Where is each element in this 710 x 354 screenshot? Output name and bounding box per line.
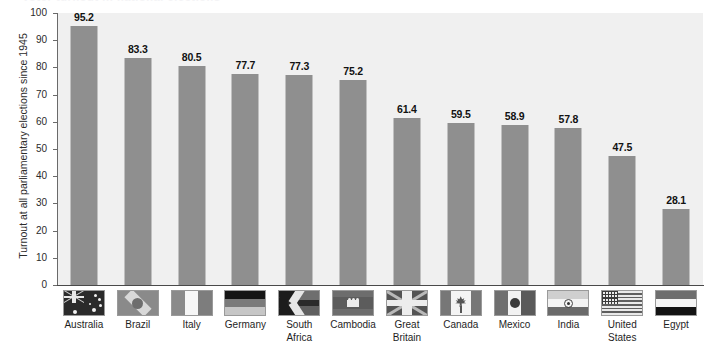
bar-value-label: 61.4 xyxy=(397,103,417,115)
category-label: India xyxy=(542,319,596,332)
flag-temple-tower xyxy=(348,298,351,305)
category-slot[interactable]: Italy xyxy=(165,286,219,332)
flag-cross-v xyxy=(72,291,77,303)
y-axis-tick-label: 90 xyxy=(36,33,47,46)
flag-india-icon xyxy=(547,290,589,316)
flag-star xyxy=(606,292,608,294)
flag-star xyxy=(609,299,611,301)
category-slot[interactable]: GreatBritain xyxy=(380,286,434,344)
flag-stripe xyxy=(198,291,211,315)
y-axis-tick-label: 30 xyxy=(36,196,47,209)
category-slot[interactable]: India xyxy=(542,286,596,332)
bar-value-label: 75.2 xyxy=(343,65,363,77)
category-slot[interactable]: Brazil xyxy=(111,286,165,332)
y-axis-tick-label: 10 xyxy=(36,251,47,264)
flag-star xyxy=(609,295,611,297)
y-axis-tick: 60 xyxy=(0,122,57,123)
y-axis-tick: 90 xyxy=(0,40,57,41)
flag-band-right xyxy=(471,291,481,315)
category-slot[interactable]: Canada xyxy=(434,286,488,332)
bar[interactable] xyxy=(70,26,97,285)
y-axis-tick: 20 xyxy=(0,231,57,232)
category-label: Great xyxy=(380,319,434,332)
category-slot[interactable]: Cambodia xyxy=(326,286,380,332)
y-axis-tick: 10 xyxy=(0,258,57,259)
flag-stripe xyxy=(656,299,696,307)
flag-star xyxy=(606,299,608,301)
flag-cambodia-icon xyxy=(332,290,374,316)
category-label: United xyxy=(595,319,649,332)
y-axis-tick-label: 0 xyxy=(41,278,47,291)
category-label: Australia xyxy=(57,319,111,332)
category-slot[interactable]: Australia xyxy=(57,286,111,332)
bar-value-label: 77.7 xyxy=(236,59,256,71)
bar-value-label: 83.3 xyxy=(128,43,148,55)
bar-slot: 58.9 xyxy=(488,13,542,285)
category-slot[interactable]: UnitedStates xyxy=(595,286,649,344)
y-axis-title: Turnout at all parliamentary elections s… xyxy=(17,1,29,291)
y-axis-tick: 80 xyxy=(0,67,57,68)
bar[interactable] xyxy=(663,209,690,285)
y-axis-tick: 40 xyxy=(0,176,57,177)
bar[interactable] xyxy=(178,66,205,285)
bar[interactable] xyxy=(286,75,313,285)
bar-slot: 83.3 xyxy=(111,13,165,285)
flag-south-africa-icon xyxy=(278,290,320,316)
bar-value-label: 59.5 xyxy=(451,108,471,120)
bar[interactable] xyxy=(340,80,367,285)
category-label: Germany xyxy=(219,319,273,332)
flag-stripe xyxy=(548,291,588,299)
bar[interactable] xyxy=(501,125,528,285)
bar[interactable] xyxy=(124,58,151,285)
category-label: South xyxy=(272,319,326,332)
bar-series: 95.283.380.577.777.375.261.459.558.957.8… xyxy=(57,13,703,285)
bar[interactable] xyxy=(393,118,420,285)
clipped-header-strip: Voter turnout in national elections xyxy=(0,0,710,7)
category-slot[interactable]: Mexico xyxy=(488,286,542,332)
y-axis-tick: 0 xyxy=(0,285,57,286)
category-label: Britain xyxy=(380,332,434,345)
bar-slot: 77.3 xyxy=(272,13,326,285)
flag-star xyxy=(615,299,617,301)
category-slot[interactable]: SouthAfrica xyxy=(272,286,326,344)
y-axis-tick-label: 40 xyxy=(36,169,47,182)
flag-canada-icon xyxy=(440,290,482,316)
flag-stripe xyxy=(225,291,265,299)
flag-united-states-icon xyxy=(601,290,643,316)
category-label: Egypt xyxy=(649,319,703,332)
category-slot[interactable]: Egypt xyxy=(649,286,703,332)
bar-value-label: 77.3 xyxy=(289,60,309,72)
bar[interactable] xyxy=(447,123,474,285)
flag-band-left xyxy=(441,291,451,315)
flag-star xyxy=(98,298,101,301)
bar-slot: 28.1 xyxy=(649,13,703,285)
bar-slot: 59.5 xyxy=(434,13,488,285)
flag-hoist-triangle xyxy=(279,298,287,308)
flag-star xyxy=(89,303,91,305)
flag-stripe xyxy=(185,291,198,315)
flag-star xyxy=(612,295,614,297)
flag-stripe xyxy=(548,307,588,315)
category-label: States xyxy=(595,332,649,345)
flag-germany-icon xyxy=(224,290,266,316)
y-axis-tick: 50 xyxy=(0,149,57,150)
chart-figure: Voter turnout in national elections Turn… xyxy=(0,0,710,354)
flag-star xyxy=(612,299,614,301)
bar[interactable] xyxy=(232,74,259,285)
flag-temple-tower xyxy=(356,298,359,305)
flag-australia-icon xyxy=(63,290,105,316)
category-slot[interactable]: Germany xyxy=(219,286,273,332)
bar[interactable] xyxy=(609,156,636,285)
flag-stripe xyxy=(172,291,185,315)
bar[interactable] xyxy=(555,128,582,285)
flag-star xyxy=(609,292,611,294)
flag-great-britain-icon xyxy=(386,290,428,316)
y-axis-tick-label: 50 xyxy=(36,142,47,155)
category-label: Canada xyxy=(434,319,488,332)
flag-stripe xyxy=(225,307,265,315)
y-axis-tick: 30 xyxy=(0,203,57,204)
flag-cross-v xyxy=(402,291,412,315)
flag-star xyxy=(615,302,617,304)
bar-value-label: 57.8 xyxy=(559,113,579,125)
flag-italy-icon xyxy=(171,290,213,316)
